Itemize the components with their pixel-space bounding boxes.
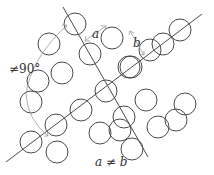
lattice-circles — [20, 13, 196, 163]
lattice-circle — [135, 89, 157, 111]
lattice-circle — [20, 91, 42, 113]
lattice-circle — [165, 109, 187, 131]
lattice-circle — [89, 122, 111, 144]
lattice-circle — [174, 93, 196, 115]
oblique-lattice-diagram: a b ≠90° a ≠ b — [0, 0, 214, 175]
lattice-circle — [139, 39, 161, 61]
label-b: b — [133, 36, 141, 50]
label-angle: ≠90° — [9, 62, 40, 76]
label-a: a — [92, 27, 99, 41]
lattice-circle — [147, 116, 169, 138]
lattice-circle — [64, 13, 86, 35]
lattice-circle — [113, 106, 135, 128]
lattice-circle — [46, 141, 68, 163]
lattice-circle — [101, 27, 123, 49]
label-condition: a ≠ b — [95, 155, 128, 169]
lattice-circle — [45, 114, 67, 136]
lattice-circle — [70, 99, 92, 121]
lattice-line-a — [6, 14, 202, 162]
lattice-circle — [51, 62, 73, 84]
lattice-circle — [109, 119, 131, 141]
lattice-circle — [20, 131, 42, 153]
